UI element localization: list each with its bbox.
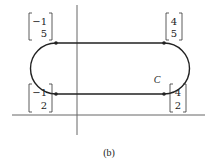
vector-bottom-right-x: 4 (175, 87, 181, 98)
vector-top-right-y: 5 (171, 28, 177, 39)
vector-bottom-right-y: 2 (175, 100, 181, 111)
vector-top-left-y: 5 (41, 28, 47, 39)
vector-label-top-right: 4 5 (166, 13, 182, 40)
vector-label-bottom-right: 4 2 (170, 84, 186, 112)
point-dot-bottom-right (162, 92, 166, 96)
curve-c (31, 43, 190, 94)
point-dot-bottom-left (54, 92, 58, 96)
diagram-canvas: −1 5 4 5 −1 2 4 2 C (b) (0, 0, 214, 162)
vector-top-left-x: −1 (32, 16, 47, 27)
vector-top-right-x: 4 (171, 16, 177, 27)
vector-label-bottom-left: −1 2 (29, 84, 52, 112)
vector-bottom-left-y: 2 (41, 100, 47, 111)
point-dot-top-left (54, 41, 58, 45)
point-dot-top-right (162, 41, 166, 45)
figure-caption: (b) (103, 147, 115, 159)
vector-label-top-left: −1 5 (29, 13, 52, 40)
curve-label: C (154, 74, 161, 85)
vector-bottom-left-x: −1 (32, 87, 47, 98)
